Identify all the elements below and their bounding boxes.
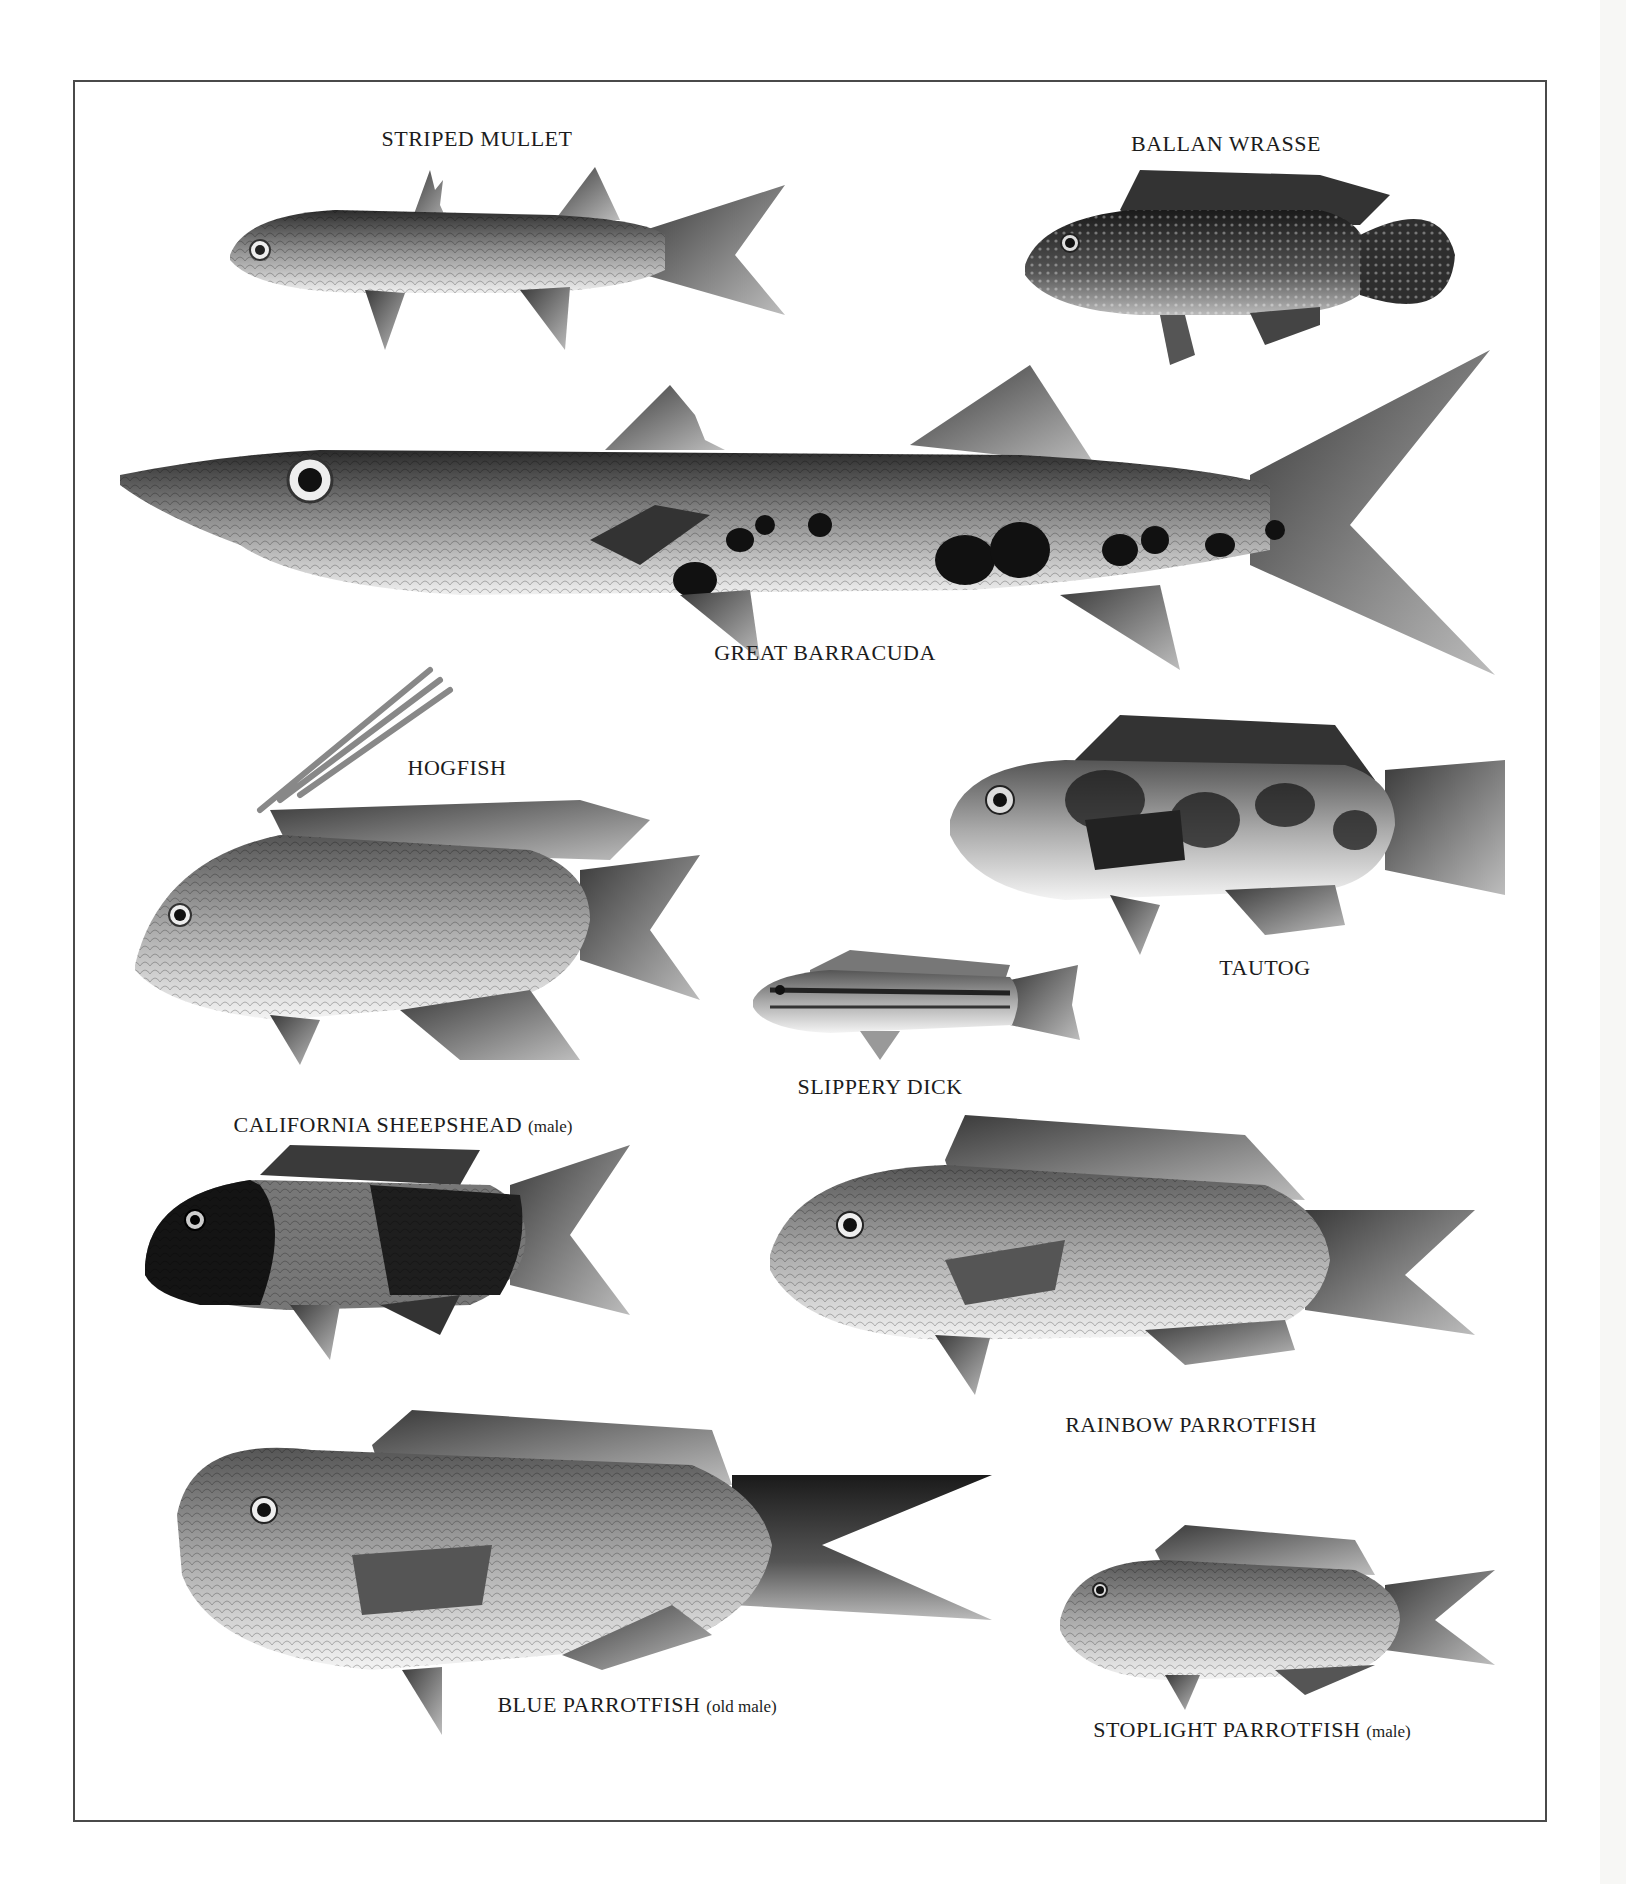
species-name: GREAT BARRACUDA	[714, 640, 936, 665]
striped-mullet-illustration	[225, 165, 795, 360]
species-name: BLUE PARROTFISH	[497, 1692, 700, 1717]
great-barracuda-illustration	[120, 345, 1495, 675]
label-hogfish: HOGFISH	[408, 755, 507, 781]
blue-parrotfish-illustration	[172, 1405, 992, 1735]
label-stoplight-parrotfish: STOPLIGHT PARROTFISH (male)	[1093, 1717, 1410, 1743]
tautog-illustration	[945, 710, 1505, 955]
species-name: STOPLIGHT PARROTFISH	[1093, 1717, 1360, 1742]
species-name: HOGFISH	[408, 755, 507, 780]
label-blue-parrotfish: BLUE PARROTFISH (old male)	[497, 1692, 776, 1718]
label-tautog: TAUTOG	[1219, 955, 1310, 981]
hogfish-illustration	[130, 670, 705, 1070]
species-name: TAUTOG	[1219, 955, 1310, 980]
species-note: (male)	[528, 1117, 572, 1136]
label-california-sheepshead: CALIFORNIA SHEEPSHEAD (male)	[234, 1112, 573, 1138]
california-sheepshead-illustration	[140, 1145, 630, 1370]
rainbow-parrotfish-illustration	[765, 1110, 1480, 1400]
species-name: CALIFORNIA SHEEPSHEAD	[234, 1112, 523, 1137]
slippery-dick-illustration	[750, 945, 1080, 1065]
fish-plate: STRIPED MULLET BALLAN WRASSE GREAT BARRA…	[0, 0, 1626, 1884]
species-name: RAINBOW PARROTFISH	[1065, 1412, 1317, 1437]
label-ballan-wrasse: BALLAN WRASSE	[1131, 131, 1321, 157]
species-name: BALLAN WRASSE	[1131, 131, 1321, 156]
stoplight-parrotfish-illustration	[1055, 1525, 1495, 1710]
species-name: SLIPPERY DICK	[797, 1074, 962, 1099]
label-striped-mullet: STRIPED MULLET	[382, 126, 573, 152]
label-great-barracuda: GREAT BARRACUDA	[714, 640, 936, 666]
label-slippery-dick: SLIPPERY DICK	[797, 1074, 962, 1100]
species-note: (male)	[1366, 1722, 1410, 1741]
ballan-wrasse-illustration	[1020, 165, 1460, 365]
species-name: STRIPED MULLET	[382, 126, 573, 151]
species-note: (old male)	[706, 1697, 776, 1716]
label-rainbow-parrotfish: RAINBOW PARROTFISH	[1065, 1412, 1317, 1438]
